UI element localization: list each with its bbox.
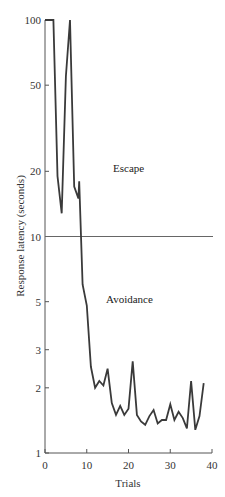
y-tick-label: 1 bbox=[36, 447, 42, 459]
avoidance-label: Avoidance bbox=[106, 293, 153, 305]
y-tick-label: 50 bbox=[30, 79, 42, 91]
y-tick-label: 20 bbox=[30, 165, 42, 177]
latency-series bbox=[45, 20, 204, 430]
x-tick-label: 40 bbox=[207, 459, 219, 471]
y-tick-label: 100 bbox=[25, 14, 42, 26]
y-tick-label: 3 bbox=[36, 344, 42, 356]
x-tick-label: 0 bbox=[42, 459, 48, 471]
x-tick-label: 20 bbox=[123, 459, 135, 471]
y-axis-title: Response latency (seconds) bbox=[14, 175, 27, 297]
y-tick-label: 10 bbox=[30, 231, 42, 243]
latency-chart: 1235102050100010203040 Escape Avoidance … bbox=[0, 0, 225, 497]
series-line bbox=[45, 20, 204, 430]
x-tick-label: 30 bbox=[165, 459, 177, 471]
escape-label: Escape bbox=[113, 162, 144, 174]
x-axis-title: Trials bbox=[115, 477, 140, 489]
y-tick-label: 2 bbox=[36, 382, 42, 394]
x-tick-label: 10 bbox=[81, 459, 93, 471]
y-tick-label: 5 bbox=[36, 296, 42, 308]
